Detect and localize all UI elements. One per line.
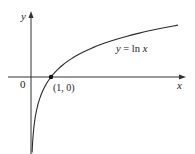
origin-label: 0: [20, 78, 26, 90]
y-axis-label: y: [20, 10, 26, 22]
x-axis-label: x: [176, 79, 182, 91]
ln-graph: y 0 (1, 0) x y = ln x: [0, 0, 195, 154]
curve-label: y = ln x: [115, 43, 148, 54]
point-marker: [49, 75, 53, 79]
y-axis-arrow-icon: [29, 11, 34, 18]
point-label: (1, 0): [53, 82, 75, 94]
